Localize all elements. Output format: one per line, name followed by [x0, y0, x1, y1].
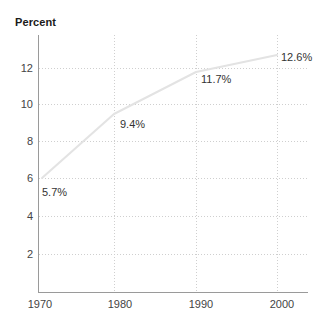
x-axis-tick-labels: 1970 1980 1990 2000 [28, 298, 294, 310]
data-label-1980: 9.4% [120, 118, 145, 130]
ytick-label-10: 10 [21, 98, 33, 110]
chart-container: Percent 12 10 8 6 4 2 [0, 0, 324, 322]
y-axis-tick-labels: 12 10 8 6 4 2 [21, 62, 33, 260]
data-point-labels: 5.7% 9.4% 11.7% 12.6% [42, 51, 312, 198]
ytick-label-8: 8 [27, 135, 33, 147]
ytick-label-6: 6 [27, 172, 33, 184]
xtick-label-1970: 1970 [28, 298, 52, 310]
ytick-label-12: 12 [21, 62, 33, 74]
xtick-label-1990: 1990 [189, 298, 213, 310]
data-label-1990: 11.7% [201, 73, 232, 85]
data-label-2000: 12.6% [281, 51, 312, 63]
series-percent-polyline [42, 55, 277, 178]
vertical-gridlines [114, 35, 277, 292]
xtick-label-1980: 1980 [108, 298, 132, 310]
ytick-label-2: 2 [27, 248, 33, 260]
line-chart-plot: 12 10 8 6 4 2 1970 1980 1990 2000 5.7% 9… [0, 0, 324, 322]
xtick-label-2000: 2000 [270, 298, 294, 310]
data-series-line [42, 55, 277, 178]
data-label-1970: 5.7% [42, 186, 67, 198]
ytick-label-4: 4 [27, 210, 33, 222]
horizontal-gridlines [39, 68, 308, 254]
